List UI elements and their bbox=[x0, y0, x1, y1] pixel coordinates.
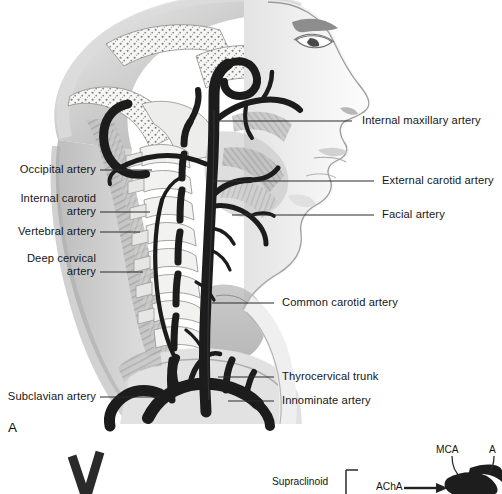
label-thyrocervical-trunk: Thyrocervical trunk bbox=[282, 370, 378, 383]
label-acha: AChA bbox=[376, 481, 403, 492]
label-innominate-artery: Innominate artery bbox=[282, 394, 371, 407]
label-aca-clipped: A bbox=[489, 444, 496, 455]
label-vertebral-artery: Vertebral artery bbox=[10, 225, 96, 238]
panel-a-letter: A bbox=[8, 420, 17, 435]
label-external-carotid-artery: External carotid artery bbox=[382, 174, 494, 187]
figure-root: Occipital artery Internal carotid artery… bbox=[0, 0, 502, 494]
label-common-carotid-artery: Common carotid artery bbox=[282, 296, 398, 309]
label-supraclinoid: Supraclinoid bbox=[272, 476, 328, 487]
anatomical-illustration bbox=[0, 0, 502, 494]
label-occipital-artery: Occipital artery bbox=[12, 163, 96, 176]
label-subclavian-artery: Subclavian artery bbox=[2, 390, 96, 403]
label-internal-carotid-artery: Internal carotid artery bbox=[10, 192, 96, 218]
label-mca: MCA bbox=[436, 444, 459, 455]
label-facial-artery: Facial artery bbox=[382, 208, 445, 221]
label-deep-cervical-artery: Deep cervical artery bbox=[12, 252, 96, 278]
label-internal-maxillary-artery: Internal maxillary artery bbox=[362, 114, 481, 127]
